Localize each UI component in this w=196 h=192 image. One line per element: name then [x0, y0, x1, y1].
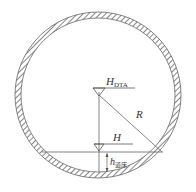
radius-label: R: [135, 108, 143, 120]
h-label: H: [112, 131, 122, 143]
tunnel-cross-section-diagram: HDTA R H h道床: [0, 0, 196, 192]
tunnel-lining-ring: [0, 0, 196, 192]
